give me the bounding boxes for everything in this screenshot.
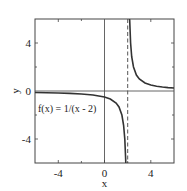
function-plot: -4 0 4 4 0 -4 x y f(x) = 1/(x - 2) (0, 0, 187, 191)
ytick-label-neg4: -4 (22, 133, 32, 145)
curve-right-branch (130, 19, 175, 88)
function-annotation: f(x) = 1/(x - 2) (38, 103, 96, 115)
ytick-label-4: 4 (26, 37, 32, 49)
xtick-label-4: 4 (148, 167, 154, 179)
y-axis-label: y (9, 88, 21, 94)
ytick-label-0: 0 (26, 85, 32, 97)
x-axis-label: x (102, 177, 108, 189)
xtick-label-neg4: -4 (54, 167, 64, 179)
